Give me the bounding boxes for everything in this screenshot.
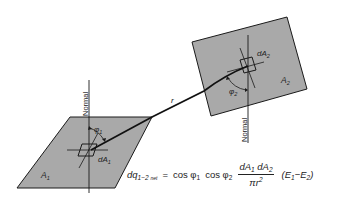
eq-lhs: dq1−2 net <box>127 169 157 181</box>
normal-label-a1: Normal <box>81 91 90 116</box>
normal-label-a2: Normal <box>240 117 249 142</box>
eq-equals: = <box>162 169 168 180</box>
eq-cos-phi2: cos φ2 <box>205 169 232 181</box>
surface-a2 <box>192 17 307 116</box>
eq-emissive-difference: (E1−E2) <box>282 169 314 181</box>
net-exchange-equation: dq1−2 net = cos φ1 cos φ2 dA1 dA2 πr2 (E… <box>127 161 313 188</box>
eq-denominator: πr2 <box>249 175 262 188</box>
eq-cos-phi1: cos φ1 <box>173 169 200 181</box>
eq-fraction: dA1 dA2 πr2 <box>238 161 273 188</box>
distance-label-r: r <box>171 96 174 105</box>
eq-numerator: dA1 dA2 <box>238 161 273 175</box>
